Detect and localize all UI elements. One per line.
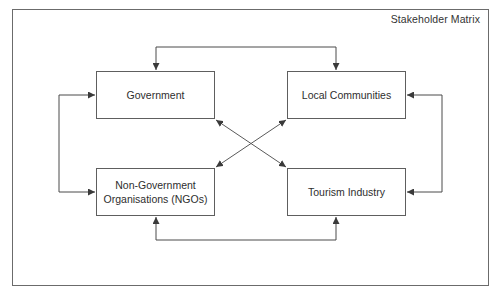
node-local-communities: Local Communities [287, 71, 406, 119]
edge-ngos-tourism-industry [156, 217, 336, 240]
connectors [0, 0, 500, 294]
node-ngos-label: Non-Government Organisations (NGOs) [104, 178, 208, 206]
node-tourism-industry: Tourism Industry [287, 168, 406, 216]
edge-government-ngos [59, 95, 95, 192]
edge-local-communities-tourism-industry [407, 95, 442, 192]
node-government-label: Government [127, 88, 185, 102]
node-ngos: Non-Government Organisations (NGOs) [96, 168, 215, 216]
node-government: Government [96, 71, 215, 119]
node-tourism-industry-label: Tourism Industry [308, 185, 385, 199]
edge-government-local-communities [156, 47, 336, 70]
node-local-communities-label: Local Communities [302, 88, 391, 102]
